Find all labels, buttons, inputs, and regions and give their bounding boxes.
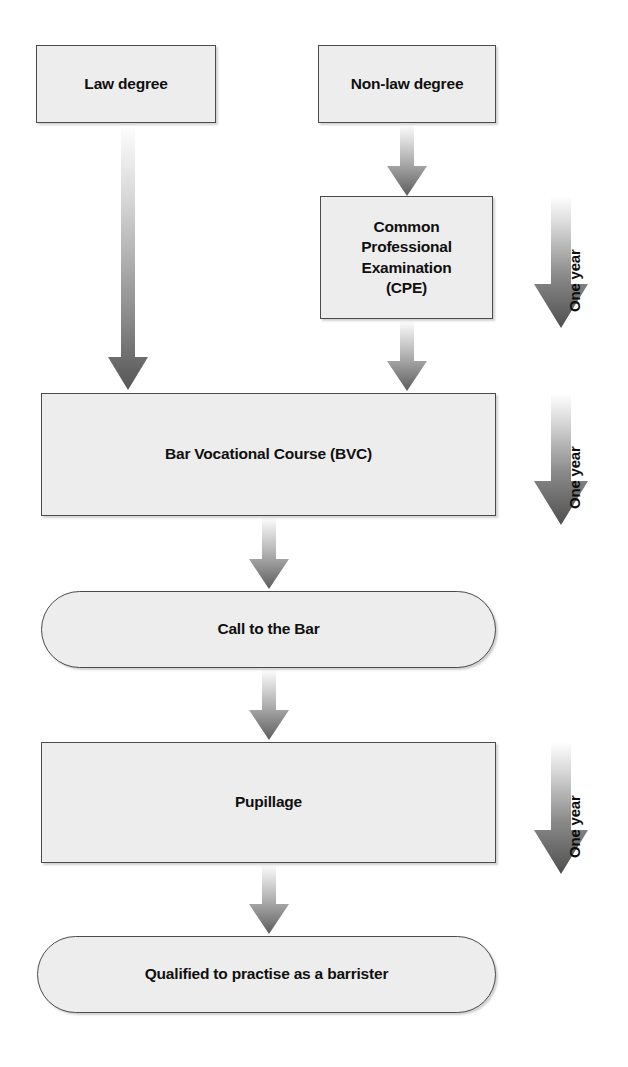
node-call-to-the-bar-label: Call to the Bar	[211, 619, 325, 639]
node-common-professional-examination: Common Professional Examination (CPE)	[320, 196, 493, 319]
arrow-call-to-bar-to-pupillage	[249, 669, 289, 740]
node-law-degree: Law degree	[36, 45, 216, 123]
node-qualified-to-practise-as-a-barrister: Qualified to practise as a barrister	[37, 936, 496, 1013]
arrow-bvc-to-call-to-bar	[249, 517, 289, 589]
node-non-law-degree-label: Non-law degree	[345, 74, 470, 94]
arrow-pupillage-to-qualified	[249, 864, 289, 934]
node-law-degree-label: Law degree	[78, 74, 173, 94]
node-bar-vocational-course: Bar Vocational Course (BVC)	[41, 393, 496, 516]
arrow-nonlaw-degree-to-cpe	[387, 124, 427, 196]
duration-arrow-one-year-pupillage	[534, 742, 588, 874]
node-qualified-label: Qualified to practise as a barrister	[139, 964, 394, 984]
node-call-to-the-bar: Call to the Bar	[41, 591, 496, 668]
node-bvc-label: Bar Vocational Course (BVC)	[159, 444, 378, 464]
arrow-law-degree-to-bvc	[108, 124, 148, 390]
node-pupillage-label: Pupillage	[229, 792, 308, 812]
node-pupillage: Pupillage	[41, 742, 496, 863]
node-cpe-label: Common Professional Examination (CPE)	[355, 217, 458, 298]
node-non-law-degree: Non-law degree	[318, 45, 496, 123]
arrow-cpe-to-bvc	[387, 320, 427, 391]
duration-arrow-one-year-bvc	[534, 393, 588, 525]
flowchart-canvas: One year One year	[0, 0, 628, 1067]
duration-arrow-one-year-cpe	[534, 196, 588, 328]
